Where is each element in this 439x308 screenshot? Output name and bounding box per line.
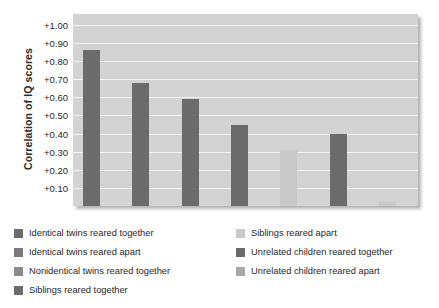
y-tick-label: +0.90 <box>44 37 68 48</box>
legend-item: Siblings reared apart <box>236 224 436 242</box>
bar <box>182 99 199 206</box>
legend-item: Unrelated children reared apart <box>236 262 436 280</box>
plot-area <box>73 14 418 206</box>
y-tick-label: +0.20 <box>44 164 68 175</box>
legend-column-right: Siblings reared apartUnrelated children … <box>236 224 436 281</box>
legend-label: Unrelated children reared apart <box>251 266 380 276</box>
legend-label: Siblings reared together <box>29 285 128 295</box>
y-tick-label: +0.30 <box>44 146 68 157</box>
bar <box>280 150 297 206</box>
legend-item: Identical twins reared together <box>14 224 229 242</box>
y-tick-label: +0.50 <box>44 110 68 121</box>
bar <box>330 134 347 206</box>
legend-label: Unrelated children reared together <box>251 247 393 257</box>
y-tick-label: +0.40 <box>44 128 68 139</box>
y-tick-label: +0.60 <box>44 92 68 103</box>
legend-swatch-icon <box>14 267 23 276</box>
bar-series <box>73 14 418 206</box>
iq-correlation-bar-chart: Correlation of IQ scores +1.00+0.90+0.80… <box>0 0 439 308</box>
legend-label: Identical twins reared together <box>29 228 154 238</box>
bar <box>379 202 396 206</box>
bar <box>132 83 149 206</box>
bar <box>83 50 100 206</box>
y-tick-label: +1.00 <box>44 19 68 30</box>
legend: Identical twins reared togetherIdentical… <box>14 224 429 302</box>
legend-column-left: Identical twins reared togetherIdentical… <box>14 224 229 300</box>
legend-swatch-icon <box>14 248 23 257</box>
legend-label: Identical twins reared apart <box>29 247 141 257</box>
legend-swatch-icon <box>236 229 245 238</box>
legend-item: Nonidentical twins reared together <box>14 262 229 280</box>
y-tick-label: +0.80 <box>44 56 68 67</box>
legend-label: Nonidentical twins reared together <box>29 266 170 276</box>
y-tick-label: +0.70 <box>44 74 68 85</box>
legend-swatch-icon <box>236 248 245 257</box>
legend-swatch-icon <box>14 229 23 238</box>
legend-label: Siblings reared apart <box>251 228 337 238</box>
y-tick-label: +0.10 <box>44 182 68 193</box>
legend-item: Siblings reared together <box>14 281 229 299</box>
legend-item: Unrelated children reared together <box>236 243 436 261</box>
bar <box>231 125 248 207</box>
y-axis-tick-labels: +1.00+0.90+0.80+0.70+0.60+0.50+0.40+0.30… <box>0 0 73 206</box>
legend-item: Identical twins reared apart <box>14 243 229 261</box>
legend-swatch-icon <box>14 286 23 295</box>
legend-swatch-icon <box>236 267 245 276</box>
